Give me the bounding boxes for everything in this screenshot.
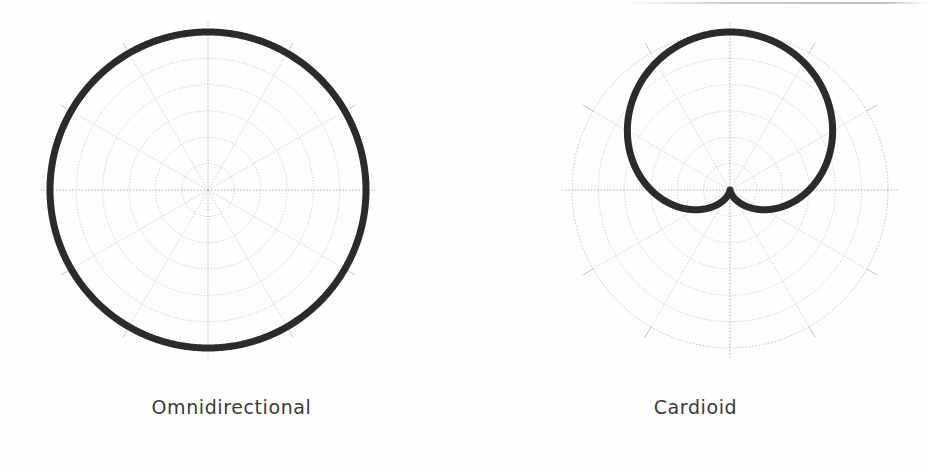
panel-cardioid: Cardioid (464, 0, 927, 474)
polar-grid-omni (41, 23, 376, 358)
caption-cardioid: Cardioid (464, 396, 927, 418)
polar-plot-omnidirectional (0, 0, 463, 380)
polar-pattern-figure: Omnidirectional Cardioid (0, 0, 927, 474)
polar-plot-cardioid (464, 0, 927, 380)
caption-omnidirectional: Omnidirectional (0, 396, 463, 418)
panel-omnidirectional: Omnidirectional (0, 0, 463, 474)
